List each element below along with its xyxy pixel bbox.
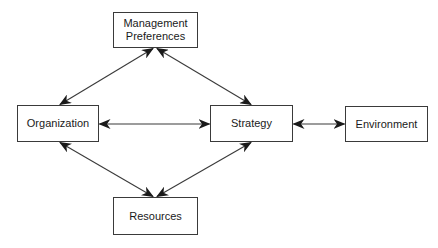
edge-mgmt-org (60, 49, 153, 105)
node-resources: Resources (113, 197, 198, 235)
edge-mgmt-strat (157, 49, 251, 105)
node-management-preferences: Management Preferences (113, 12, 198, 48)
node-label: Resources (129, 210, 182, 223)
node-label: Environment (356, 118, 418, 131)
edge-org-res (60, 143, 153, 197)
node-organization: Organization (17, 105, 99, 142)
node-label: Strategy (231, 117, 272, 130)
diagram-canvas: Management Preferences Organization Stra… (0, 0, 438, 248)
node-label-line: Preferences (123, 30, 187, 43)
edge-strat-res (157, 143, 251, 197)
node-label: Organization (27, 117, 89, 130)
node-label-line: Management (123, 17, 187, 30)
node-environment: Environment (345, 106, 428, 142)
node-strategy: Strategy (210, 105, 293, 142)
